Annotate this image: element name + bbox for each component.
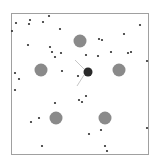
food-pellet [106, 150, 108, 152]
food-pellet [60, 52, 62, 54]
food-pellet [123, 33, 125, 35]
food-pellet [81, 101, 83, 103]
food-pellet [78, 99, 80, 101]
obstacle [99, 112, 112, 125]
food-pellet [18, 78, 20, 80]
food-pellet [49, 46, 51, 48]
food-pellet [98, 38, 100, 40]
food-pellet [104, 145, 106, 147]
food-pellet [14, 72, 16, 74]
food-pellet [28, 23, 30, 25]
food-pellet [14, 89, 16, 91]
food-pellet [88, 133, 90, 135]
food-pellet [54, 56, 56, 58]
obstacle [74, 35, 87, 48]
food-pellet [139, 24, 141, 26]
obstacle [113, 64, 126, 77]
food-pellet [110, 51, 112, 53]
food-pellet [15, 22, 17, 24]
food-pellet [29, 19, 31, 21]
food-pellet [48, 15, 50, 17]
food-pellet [97, 55, 99, 57]
food-pellet [127, 52, 129, 54]
food-pellet [59, 28, 61, 30]
obstacle [35, 64, 48, 77]
food-pellet [130, 51, 132, 53]
food-pellet [30, 121, 32, 123]
food-pellet [77, 75, 79, 77]
food-pellet [85, 54, 87, 56]
food-pellet [61, 70, 63, 72]
food-pellet [146, 127, 148, 129]
food-pellet [51, 51, 53, 53]
food-pellet [38, 117, 40, 119]
food-pellet [42, 21, 44, 23]
food-pellet [11, 30, 13, 32]
game-arena [0, 0, 161, 164]
food-pellet [41, 145, 43, 147]
food-pellet [101, 39, 103, 41]
obstacle [50, 112, 63, 125]
agent-body [84, 68, 93, 77]
food-pellet [85, 95, 87, 97]
food-pellet [27, 44, 29, 46]
food-pellet [54, 102, 56, 104]
food-pellet [146, 60, 148, 62]
food-pellet [100, 129, 102, 131]
